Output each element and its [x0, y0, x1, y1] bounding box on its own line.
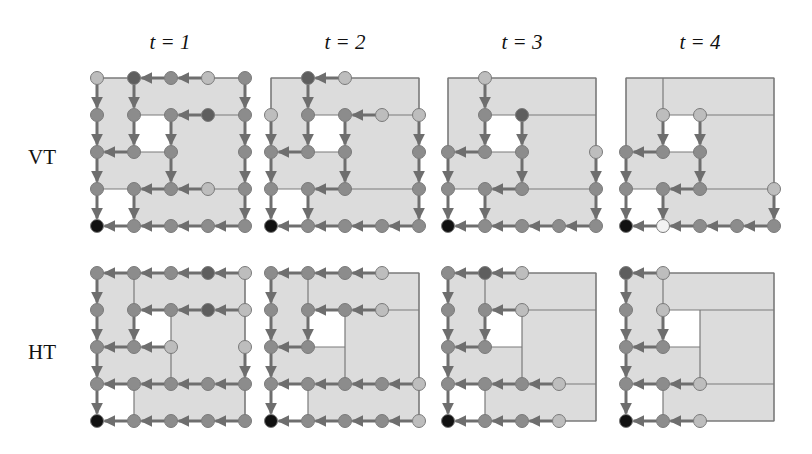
graph-node	[516, 415, 529, 428]
graph-node	[413, 109, 426, 122]
graph-node	[413, 415, 426, 428]
graph-node	[202, 415, 215, 428]
empty-cell	[134, 115, 171, 152]
graph-node	[239, 109, 252, 122]
graph-node	[239, 267, 252, 280]
graph-node	[239, 415, 252, 428]
graph-node	[265, 341, 278, 354]
graph-node	[413, 146, 426, 159]
graph-node	[339, 72, 352, 85]
graph-node	[590, 146, 603, 159]
graph-node	[302, 341, 315, 354]
graph-node	[479, 415, 492, 428]
graph-node	[128, 220, 141, 233]
graph-node	[239, 183, 252, 196]
graph-node	[302, 267, 315, 280]
graph-node	[620, 146, 633, 159]
graph-node	[657, 267, 670, 280]
panel-VT-t2	[265, 72, 426, 233]
graph-node	[165, 341, 178, 354]
graph-node	[339, 378, 352, 391]
graph-node	[657, 220, 670, 233]
graph-node	[657, 183, 670, 196]
graph-node	[442, 183, 455, 196]
graph-node	[339, 415, 352, 428]
graph-node	[339, 109, 352, 122]
panel-VT-t1	[91, 72, 252, 233]
graph-node	[657, 109, 670, 122]
graph-node	[302, 220, 315, 233]
graph-node	[413, 183, 426, 196]
graph-node	[620, 220, 633, 233]
graph-node	[165, 378, 178, 391]
graph-node	[516, 146, 529, 159]
graph-node	[165, 220, 178, 233]
graph-node	[239, 220, 252, 233]
graph-node	[239, 72, 252, 85]
graph-node	[620, 415, 633, 428]
graph-node	[479, 183, 492, 196]
graph-node	[265, 109, 278, 122]
tree-grid-diagram	[0, 0, 812, 454]
graph-node	[202, 378, 215, 391]
graph-node	[265, 415, 278, 428]
graph-node	[128, 109, 141, 122]
graph-node	[479, 109, 492, 122]
graph-node	[165, 183, 178, 196]
graph-node	[442, 304, 455, 317]
graph-node	[91, 146, 104, 159]
graph-node	[694, 378, 707, 391]
graph-node	[165, 304, 178, 317]
graph-node	[202, 220, 215, 233]
graph-node	[202, 109, 215, 122]
graph-node	[516, 109, 529, 122]
graph-node	[479, 220, 492, 233]
graph-node	[202, 267, 215, 280]
graph-node	[128, 72, 141, 85]
graph-node	[128, 341, 141, 354]
empty-cell	[663, 310, 700, 347]
graph-node	[91, 183, 104, 196]
graph-node	[265, 378, 278, 391]
panel-HT-t1	[91, 267, 252, 428]
graph-node	[376, 267, 389, 280]
graph-node	[479, 341, 492, 354]
graph-node	[128, 304, 141, 317]
empty-cell	[626, 189, 663, 226]
graph-node	[91, 341, 104, 354]
empty-cell	[485, 310, 522, 347]
graph-node	[657, 304, 670, 317]
graph-node	[376, 304, 389, 317]
graph-node	[768, 183, 781, 196]
graph-node	[165, 146, 178, 159]
empty-cell	[663, 115, 700, 152]
graph-node	[165, 415, 178, 428]
graph-node	[265, 146, 278, 159]
graph-node	[165, 72, 178, 85]
panel-HT-t4	[620, 267, 775, 428]
graph-node	[239, 146, 252, 159]
graph-node	[376, 378, 389, 391]
graph-node	[694, 415, 707, 428]
graph-node	[91, 304, 104, 317]
graph-node	[339, 220, 352, 233]
graph-node	[128, 183, 141, 196]
graph-node	[91, 267, 104, 280]
empty-cell	[485, 115, 522, 152]
graph-node	[265, 267, 278, 280]
graph-node	[302, 72, 315, 85]
graph-node	[128, 378, 141, 391]
panel-HT-t3	[442, 267, 597, 428]
graph-node	[376, 415, 389, 428]
graph-node	[516, 267, 529, 280]
graph-node	[620, 304, 633, 317]
graph-node	[202, 72, 215, 85]
graph-node	[479, 72, 492, 85]
empty-cell	[134, 310, 171, 347]
graph-node	[479, 304, 492, 317]
graph-node	[202, 304, 215, 317]
empty-cell	[97, 384, 134, 421]
graph-node	[302, 415, 315, 428]
graph-node	[442, 146, 455, 159]
graph-node	[376, 109, 389, 122]
